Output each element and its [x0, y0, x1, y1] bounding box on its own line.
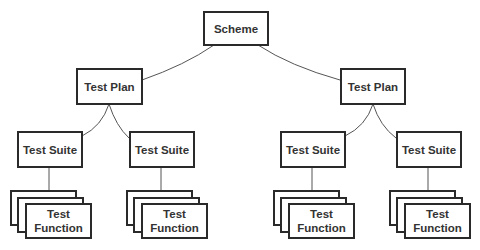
test-suite-label: Test Suite	[23, 143, 77, 157]
test-function-label-line1: Test	[310, 207, 333, 221]
test-plan-node-right: Test Plan	[340, 68, 406, 105]
test-function-label-line1: Test	[163, 207, 186, 221]
edge-plan-suite-3	[345, 104, 373, 136]
test-function-label-line2: Function	[34, 221, 83, 235]
edge-scheme-plan-left	[142, 45, 214, 80]
test-plan-label: Test Plan	[84, 80, 134, 94]
test-function-node: Test Function	[141, 203, 208, 239]
test-suite-label: Test Suite	[286, 143, 340, 157]
test-suite-label: Test Suite	[402, 143, 456, 157]
test-suite-node-1: Test Suite	[17, 131, 83, 168]
test-plan-node-left: Test Plan	[76, 68, 143, 105]
edge-plan-suite-4	[373, 104, 396, 138]
test-function-label-line2: Function	[150, 221, 199, 235]
test-function-label-line1: Test	[426, 207, 449, 221]
edge-scheme-plan-right	[258, 45, 340, 80]
test-function-node: Test Function	[404, 203, 471, 239]
test-suite-node-3: Test Suite	[280, 131, 346, 168]
scheme-node: Scheme	[203, 11, 269, 46]
test-suite-node-2: Test Suite	[129, 131, 195, 168]
test-suite-label: Test Suite	[135, 143, 189, 157]
test-function-node: Test Function	[288, 203, 355, 239]
test-function-label-line2: Function	[297, 221, 346, 235]
test-suite-node-4: Test Suite	[396, 131, 462, 168]
test-function-label-line1: Test	[47, 207, 70, 221]
test-function-label-line2: Function	[413, 221, 462, 235]
test-plan-label: Test Plan	[348, 80, 398, 94]
edge-plan-suite-2	[109, 104, 129, 138]
test-function-node: Test Function	[25, 203, 92, 239]
scheme-label: Scheme	[214, 22, 258, 36]
edge-plan-suite-1	[82, 104, 109, 136]
